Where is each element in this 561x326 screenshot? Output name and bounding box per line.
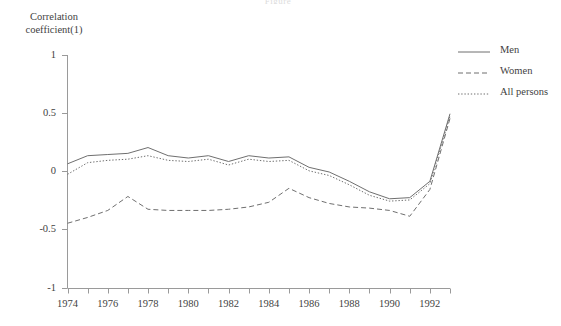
legend-item-men[interactable]: Men: [458, 44, 558, 65]
chart-figure: Figure Correlation coefficient(1) 10.50-…: [0, 0, 561, 326]
legend-label: All persons: [500, 86, 548, 97]
x-tick-label: 1980: [166, 298, 210, 309]
legend-line-sample: [458, 72, 490, 74]
x-tick-label: 1984: [247, 298, 291, 309]
x-tick-label: 1974: [46, 298, 90, 309]
x-tick-label: 1992: [408, 298, 452, 309]
x-tick-label: 1986: [287, 298, 331, 309]
legend-label: Men: [500, 44, 519, 55]
legend-item-all-persons[interactable]: All persons: [458, 86, 558, 107]
data-series-group: [68, 114, 451, 224]
y-tick-label: 0: [20, 165, 56, 176]
y-tick-label: 1: [20, 49, 56, 60]
y-tick-label: -0.5: [20, 223, 56, 234]
x-axis-ticks: [69, 289, 451, 294]
axis-lines: [68, 55, 451, 289]
x-tick-label: 1990: [368, 298, 412, 309]
series-line-all-persons: [68, 116, 451, 201]
y-axis-ticks: [62, 56, 68, 289]
y-tick-label: -1: [20, 282, 56, 293]
legend-line-sample: [458, 51, 490, 53]
chart-legend: MenWomenAll persons: [458, 44, 558, 107]
series-line-men: [68, 114, 451, 199]
legend-label: Women: [500, 65, 532, 76]
x-tick-label: 1982: [207, 298, 251, 309]
y-tick-label: 0.5: [20, 107, 56, 118]
series-line-women: [68, 118, 451, 223]
x-tick-label: 1976: [86, 298, 130, 309]
x-tick-label: 1988: [327, 298, 371, 309]
legend-item-women[interactable]: Women: [458, 65, 558, 86]
x-tick-label: 1978: [126, 298, 170, 309]
legend-line-sample: [458, 93, 490, 95]
